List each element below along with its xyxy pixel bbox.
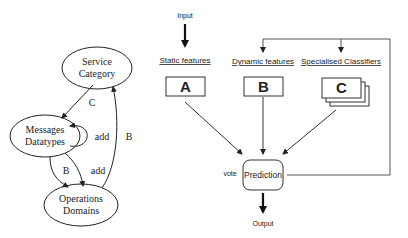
- classifier-pipeline: Input Static features Dynamic features S…: [159, 12, 390, 228]
- box-a-label: A: [180, 78, 191, 95]
- input-label: Input: [177, 12, 193, 20]
- node-label: Operations: [59, 193, 103, 204]
- specialised-classifiers-title: Specialised Classifiers: [301, 57, 381, 66]
- box-b: B: [244, 77, 283, 96]
- node-messages-datatypes: Messages Datatypes: [10, 115, 80, 157]
- node-service-category: Service Category: [62, 47, 132, 89]
- box-c-label: C: [336, 79, 347, 96]
- static-features-title: Static features: [159, 56, 210, 65]
- node-label: Messages: [26, 124, 65, 135]
- edge-label-add: add: [95, 131, 109, 142]
- prediction-node: Prediction: [243, 160, 283, 190]
- state-graph: Service Category Messages Datatypes Oper…: [10, 47, 133, 226]
- node-label: Datatypes: [25, 136, 65, 147]
- dynamic-features-title: Dynamic features: [232, 57, 294, 66]
- node-operations-domains: Operations Domains: [44, 184, 118, 226]
- edge-label-b-2: B: [126, 131, 133, 142]
- node-label: Service: [82, 56, 113, 67]
- edge-label-c: C: [89, 97, 96, 108]
- box-a: A: [166, 77, 205, 96]
- arrow-c-to-prediction: [283, 110, 336, 154]
- arrow-a-to-prediction: [185, 102, 242, 154]
- vote-label: vote: [223, 170, 236, 177]
- output-label: Output: [252, 220, 273, 228]
- prediction-label: Prediction: [244, 170, 282, 180]
- edge-label-add-2: add: [91, 165, 105, 176]
- diagram-canvas: Service Category Messages Datatypes Oper…: [0, 0, 408, 238]
- box-c-stack: C: [322, 78, 369, 106]
- node-label: Category: [79, 68, 116, 79]
- edge-label-b: B: [63, 165, 70, 176]
- box-b-label: B: [258, 78, 269, 95]
- node-label: Domains: [63, 205, 99, 216]
